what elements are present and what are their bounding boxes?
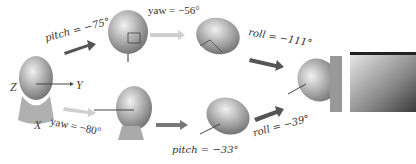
label-top-yaw: yaw = −56° bbox=[148, 4, 200, 16]
axis-y-label: Y bbox=[76, 78, 83, 93]
head-pitch-bottom-icon bbox=[200, 92, 255, 141]
arrow-pitch-top bbox=[64, 40, 96, 55]
axis-z-label: Z bbox=[10, 80, 17, 95]
head-pitch-icon bbox=[108, 10, 148, 62]
front-head-icon bbox=[18, 56, 74, 124]
arrow-yaw-bottom bbox=[63, 107, 96, 117]
head-yaw-icon bbox=[192, 13, 244, 59]
arrow-pitch-bottom bbox=[156, 120, 188, 130]
arrow-roll-top bbox=[249, 58, 284, 71]
final-face-photo bbox=[330, 52, 416, 112]
label-bottom-pitch: pitch = −33° bbox=[172, 144, 239, 155]
arrow-yaw-top bbox=[150, 30, 185, 40]
axis-x-label: X bbox=[34, 118, 41, 133]
diagram-canvas bbox=[0, 0, 416, 164]
head-yaw-bottom-icon bbox=[94, 86, 152, 140]
